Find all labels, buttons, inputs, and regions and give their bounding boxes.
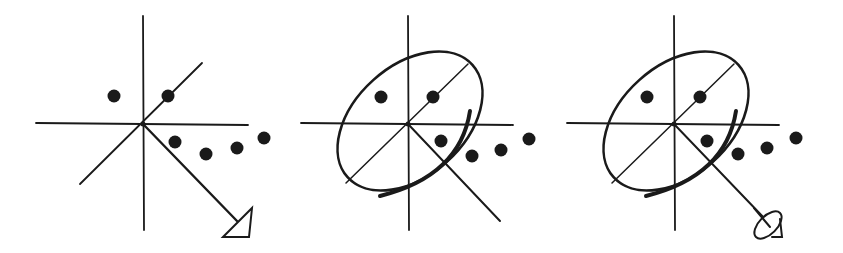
data-point <box>162 90 175 103</box>
view-direction-line <box>674 124 766 220</box>
data-point <box>435 135 448 148</box>
data-point <box>694 91 707 104</box>
data-point <box>523 133 536 146</box>
origin-point <box>672 122 677 127</box>
data-point <box>641 91 654 104</box>
diagram-canvas <box>0 0 843 253</box>
origin-point <box>141 122 146 127</box>
data-point <box>701 135 714 148</box>
data-point <box>231 142 244 155</box>
view-direction-line <box>143 124 237 221</box>
data-point <box>258 132 271 145</box>
panel-2 <box>301 16 536 230</box>
diagram-figure <box>0 0 843 253</box>
data-point <box>200 148 213 161</box>
data-point <box>761 142 774 155</box>
origin-point <box>406 122 411 127</box>
panel-3 <box>567 16 803 243</box>
data-point <box>732 148 745 161</box>
view-direction-line <box>408 124 500 221</box>
data-point <box>427 91 440 104</box>
data-point <box>790 132 803 145</box>
panel-1 <box>36 16 271 237</box>
data-point <box>495 144 508 157</box>
data-point <box>375 91 388 104</box>
data-point <box>108 90 121 103</box>
data-point <box>466 150 479 163</box>
data-point <box>169 136 182 149</box>
